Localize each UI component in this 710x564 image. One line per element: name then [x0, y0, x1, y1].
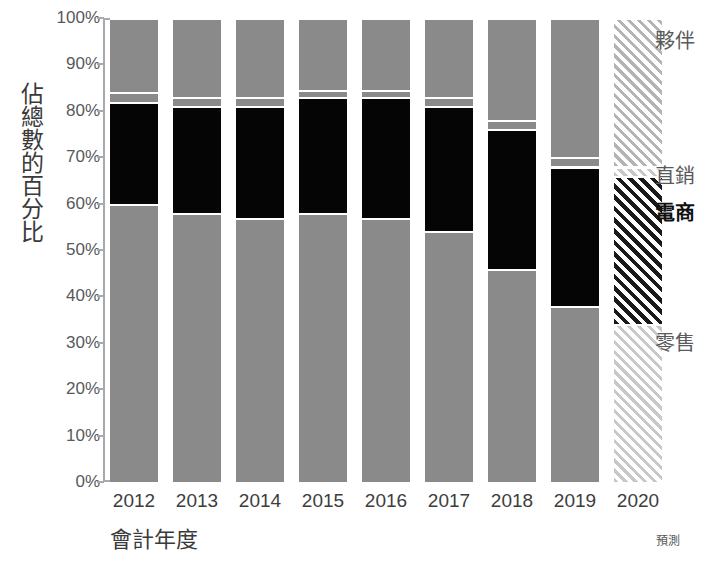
bar-2013[interactable] — [173, 18, 221, 482]
bar-segment-direct-2019[interactable] — [551, 159, 599, 166]
bar-2014[interactable] — [236, 18, 284, 482]
legend-item-直銷[interactable]: 直銷 — [655, 166, 695, 186]
bar-segment-partner-2013[interactable] — [173, 20, 221, 97]
legend-item-夥伴[interactable]: 夥伴 — [655, 31, 695, 51]
bar-segment-retail-2018[interactable] — [488, 271, 536, 482]
x-tick-label-2017: 2017 — [421, 490, 477, 512]
plot-area — [103, 18, 683, 482]
y-tick-label: 100% — [42, 8, 100, 28]
y-tick-label: 70% — [42, 147, 100, 167]
bar-segment-ecommerce-2015[interactable] — [299, 99, 347, 213]
bar-segment-partner-2014[interactable] — [236, 20, 284, 97]
bar-segment-partner-2012[interactable] — [110, 20, 158, 92]
bar-segment-direct-2018[interactable] — [488, 122, 536, 129]
bar-2019[interactable] — [551, 18, 599, 482]
y-tick-label: 40% — [42, 286, 100, 306]
y-axis-cap-bottom — [103, 480, 110, 482]
x-tick-label-2013: 2013 — [169, 490, 225, 512]
x-tick-label-2012: 2012 — [106, 490, 162, 512]
y-tick-label: 50% — [42, 240, 100, 260]
bar-segment-direct-2013[interactable] — [173, 99, 221, 106]
bar-segment-retail-2016[interactable] — [362, 220, 410, 482]
bar-2016[interactable] — [362, 18, 410, 482]
y-tick-label: 30% — [42, 333, 100, 353]
bar-segment-retail-2019[interactable] — [551, 308, 599, 482]
bar-segment-partner-2019[interactable] — [551, 20, 599, 157]
x-axis-title: 會計年度 — [110, 521, 198, 553]
bar-segment-ecommerce-2017[interactable] — [425, 108, 473, 231]
bar-segment-direct-2017[interactable] — [425, 99, 473, 106]
bar-segment-ecommerce-2018[interactable] — [488, 131, 536, 268]
bar-segment-ecommerce-2019[interactable] — [551, 169, 599, 306]
bar-segment-partner-2017[interactable] — [425, 20, 473, 97]
x-tick-label-2019: 2019 — [547, 490, 603, 512]
legend: 夥伴直銷電商零售 — [655, 0, 710, 564]
x-tick-label-2018: 2018 — [484, 490, 540, 512]
bar-segment-ecommerce-2014[interactable] — [236, 108, 284, 217]
y-tick-label: 20% — [42, 379, 100, 399]
bar-segment-partner-2018[interactable] — [488, 20, 536, 120]
bar-segment-retail-2014[interactable] — [236, 220, 284, 482]
bar-segment-retail-2012[interactable] — [110, 206, 158, 482]
y-tick-label: 0% — [42, 472, 100, 492]
bar-segment-retail-2013[interactable] — [173, 215, 221, 482]
bar-2015[interactable] — [299, 18, 347, 482]
legend-item-零售[interactable]: 零售 — [655, 333, 695, 353]
y-tick-label: 10% — [42, 426, 100, 446]
bar-segment-partner-2016[interactable] — [362, 20, 410, 90]
y-tick-label: 60% — [42, 194, 100, 214]
bar-segment-direct-2012[interactable] — [110, 94, 158, 101]
bar-segment-ecommerce-2013[interactable] — [173, 108, 221, 213]
x-tick-label-2015: 2015 — [295, 490, 351, 512]
y-axis-cap-top — [103, 18, 110, 20]
x-tick-label-2016: 2016 — [358, 490, 414, 512]
x-tick-label-2014: 2014 — [232, 490, 288, 512]
bar-segment-retail-2017[interactable] — [425, 233, 473, 482]
bar-segment-direct-2016[interactable] — [362, 92, 410, 97]
y-tick-label: 90% — [42, 54, 100, 74]
bar-segment-retail-2015[interactable] — [299, 215, 347, 482]
y-axis-tick-labels: 0%10%20%30%40%50%60%70%80%90%100% — [42, 0, 100, 564]
bar-segment-ecommerce-2012[interactable] — [110, 104, 158, 204]
x-axis-tick-labels: 201220132014201520162017201820192020 — [103, 490, 683, 520]
y-axis-title: 佔總數的百分比 — [6, 12, 42, 312]
bar-2018[interactable] — [488, 18, 536, 482]
bar-segment-ecommerce-2016[interactable] — [362, 99, 410, 218]
bar-2017[interactable] — [425, 18, 473, 482]
y-tick-label: 80% — [42, 101, 100, 121]
stacked-bar-chart: 佔總數的百分比 0%10%20%30%40%50%60%70%80%90%100… — [0, 0, 710, 564]
bar-segment-direct-2015[interactable] — [299, 92, 347, 97]
bar-segment-partner-2015[interactable] — [299, 20, 347, 90]
bar-2012[interactable] — [110, 18, 158, 482]
bar-segment-direct-2014[interactable] — [236, 99, 284, 106]
legend-item-電商[interactable]: 電商 — [655, 203, 695, 223]
